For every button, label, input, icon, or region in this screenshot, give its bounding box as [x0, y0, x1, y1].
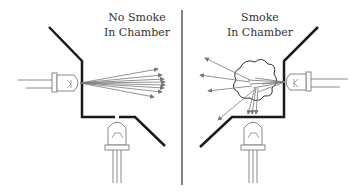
photodiode-left	[105, 122, 129, 183]
emitter-led-right	[286, 72, 348, 91]
light-rays-left	[80, 69, 165, 97]
emitter-led-left	[18, 73, 78, 92]
smoke-detector-diagram: No Smoke In Chamber Smoke In Chamber	[0, 0, 364, 192]
photodiode-right	[241, 122, 265, 183]
diagram-canvas	[0, 0, 364, 192]
